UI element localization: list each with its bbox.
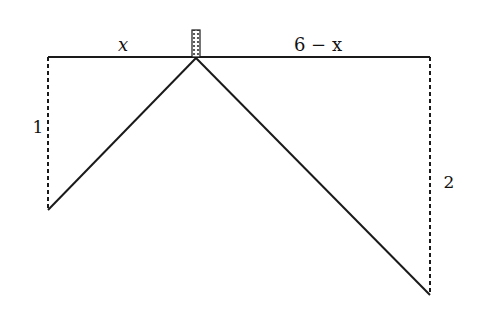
label-left-segment: x bbox=[118, 34, 128, 55]
diagram-canvas: x 6 − x 1 2 bbox=[0, 0, 477, 319]
left-slanted-line bbox=[48, 58, 196, 210]
post-icon bbox=[192, 30, 200, 57]
label-right-segment: 6 − x bbox=[294, 34, 342, 55]
label-left-height: 1 bbox=[33, 117, 44, 137]
label-right-height: 2 bbox=[444, 172, 455, 192]
right-slanted-line bbox=[196, 58, 430, 295]
